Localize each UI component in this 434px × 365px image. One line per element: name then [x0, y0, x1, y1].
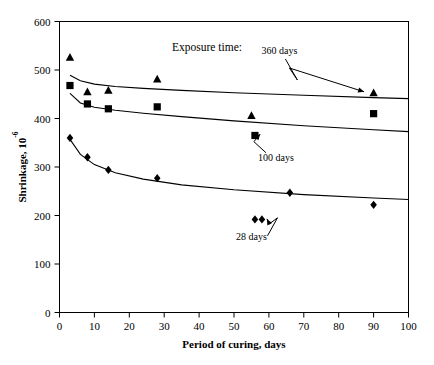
marker-square [154, 103, 161, 110]
x-tick-label: 50 [229, 320, 241, 332]
x-tick-label: 70 [298, 320, 310, 332]
y-tick-label: 0 [45, 307, 51, 319]
x-axis-title: Period of curing, days [182, 338, 286, 350]
x-tick-label: 10 [89, 320, 101, 332]
marker-square [370, 110, 377, 117]
annotation-label-28-days: 28 days [236, 231, 267, 242]
annotation-label-100-days: 100 days [258, 152, 294, 163]
y-axis-title: Shrinkage, 10-6 [11, 131, 29, 202]
shrinkage-vs-curing-chart: 0100200300400500600 01020304050607080901… [0, 0, 434, 365]
y-axis-title-exponent: -6 [11, 131, 20, 137]
annotation-label-360-days: 360 days [261, 45, 297, 56]
y-tick-label: 300 [34, 161, 51, 173]
marker-square [66, 82, 73, 89]
legend-title: Exposure time: [172, 41, 242, 54]
y-axis-tick-labels: 0100200300400500600 [34, 16, 51, 319]
x-tick-label: 60 [263, 320, 275, 332]
x-tick-label: 40 [194, 320, 206, 332]
y-tick-label: 600 [34, 16, 51, 28]
x-tick-label: 20 [124, 320, 136, 332]
x-axis-ticks [60, 313, 409, 318]
marker-square [105, 105, 112, 112]
y-axis-title-group: Shrinkage, 10-6 [11, 131, 29, 202]
y-tick-label: 100 [34, 258, 51, 270]
x-axis-tick-labels: 0102030405060708090100 [57, 320, 418, 332]
y-tick-label: 500 [34, 64, 51, 76]
marker-square [84, 100, 91, 107]
x-tick-label: 90 [368, 320, 380, 332]
chart-canvas: 0100200300400500600 01020304050607080901… [0, 0, 434, 365]
x-tick-label: 100 [400, 320, 417, 332]
y-axis-title-text: Shrinkage, 10 [16, 137, 28, 202]
y-axis-ticks [55, 22, 60, 313]
y-tick-label: 200 [34, 210, 51, 222]
y-tick-label: 400 [34, 113, 51, 125]
x-tick-label: 0 [57, 320, 63, 332]
x-tick-label: 80 [333, 320, 345, 332]
x-tick-label: 30 [159, 320, 171, 332]
plot-frame [60, 22, 409, 313]
